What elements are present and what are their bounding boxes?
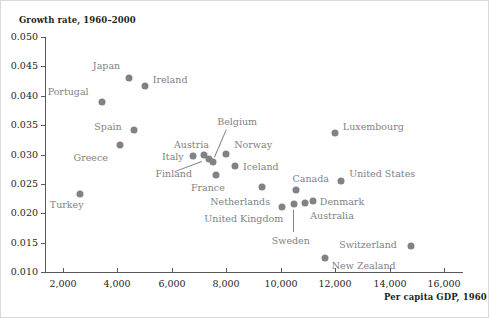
data-point-label: Belgium [217,116,257,127]
scatter-chart-figure: Growth rate, 1960–2000 Per capita GDP, 1… [0,0,489,318]
data-point-label: Luxembourg [343,121,404,132]
y-tick-label: 0.015 [0,237,38,248]
y-tick-mark [41,37,46,38]
data-point[interactable] [98,99,105,106]
data-point[interactable] [331,129,338,136]
data-point[interactable] [309,197,316,204]
data-point[interactable] [302,199,309,206]
data-point-label: Austria [174,139,209,150]
x-tick-label: 10,000 [256,278,306,289]
y-tick-label: 0.050 [0,31,38,42]
data-point-label: Ireland [153,74,188,85]
data-point-label: Sweden [272,235,310,246]
y-tick-mark [41,184,46,185]
x-tick-label: 16,000 [419,278,469,289]
x-tick-mark [281,268,282,273]
data-point[interactable] [231,162,238,169]
data-point-label: France [191,182,225,193]
x-tick-label: 2,000 [38,278,88,289]
y-tick-mark [41,272,46,273]
y-tick-mark [41,66,46,67]
data-point-label: Portugal [48,86,89,97]
y-tick-label: 0.035 [0,119,38,130]
data-point-label: Netherlands [210,196,270,207]
y-tick-mark [41,243,46,244]
data-point-label: United Kingdom [204,213,283,224]
data-point-label: United States [349,168,415,179]
data-point[interactable] [125,75,132,82]
data-point-label: Spain [94,121,121,132]
label-leader-line [293,210,294,232]
y-tick-label: 0.025 [0,178,38,189]
data-point[interactable] [131,126,138,133]
data-point-label: Italy [162,151,184,162]
x-tick-label: 6,000 [147,278,197,289]
data-point-label: Norway [234,139,272,150]
data-point[interactable] [408,242,415,249]
data-point[interactable] [259,183,266,190]
y-tick-label: 0.045 [0,60,38,71]
data-point-label: Denmark [320,196,364,207]
data-point[interactable] [116,141,123,148]
data-point[interactable] [279,203,286,210]
y-tick-label: 0.020 [0,207,38,218]
x-tick-mark [172,268,173,273]
y-tick-mark [41,96,46,97]
data-point[interactable] [293,186,300,193]
x-axis-line [45,272,463,273]
data-point[interactable] [212,172,219,179]
data-point-label: Iceland [243,161,279,172]
data-point-label: Finland [155,168,192,179]
y-tick-label: 0.040 [0,90,38,101]
x-tick-mark [444,268,445,273]
data-point[interactable] [321,255,328,262]
y-tick-label: 0.010 [0,266,38,277]
data-point-label: Switzerland [339,239,397,250]
x-tick-mark [117,268,118,273]
data-point-label: Canada [292,173,328,184]
data-point[interactable] [141,83,148,90]
y-tick-mark [41,155,46,156]
data-point-label: Australia [310,210,354,221]
y-tick-label: 0.030 [0,149,38,160]
data-point-label: New Zealand [332,260,396,271]
plot-area: Growth rate, 1960–2000 Per capita GDP, 1… [1,1,489,318]
data-point[interactable] [338,177,345,184]
x-tick-label: 8,000 [201,278,251,289]
x-tick-label: 4,000 [92,278,142,289]
data-point[interactable] [210,159,217,166]
data-point-label: Turkey [50,199,84,210]
y-axis-title: Growth rate, 1960–2000 [19,15,136,25]
data-point-label: Greece [74,152,108,163]
data-point-label: Japan [93,60,120,71]
y-tick-mark [41,125,46,126]
data-point[interactable] [223,150,230,157]
x-tick-mark [63,268,64,273]
data-point[interactable] [190,152,197,159]
data-point[interactable] [76,191,83,198]
x-axis-title: Per capita GDP, 1960 [384,292,487,302]
data-point[interactable] [290,201,297,208]
x-tick-label: 14,000 [365,278,415,289]
x-tick-mark [226,268,227,273]
y-tick-mark [41,213,46,214]
x-tick-label: 12,000 [310,278,360,289]
